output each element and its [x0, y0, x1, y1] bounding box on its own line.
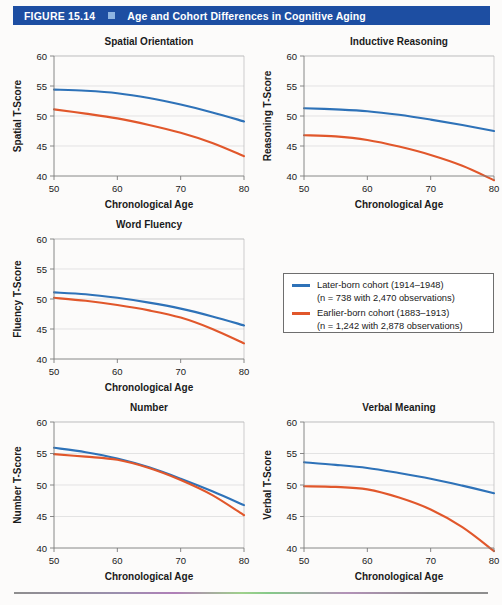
legend-item-later-born-label: Later-born cohort (1914–1948) (n = 738 w…	[317, 279, 455, 304]
y-tick-label-60: 60	[36, 417, 47, 428]
chart-title: Spatial Orientation	[105, 36, 194, 47]
figure-number: FIGURE 15.14	[24, 10, 95, 22]
x-tick-label-50: 50	[49, 366, 60, 377]
x-axis-title: Chronological Age	[105, 382, 194, 393]
chart-panel-number: Number404550556050607080Chronological Ag…	[8, 396, 252, 592]
x-tick-label-70: 70	[175, 183, 186, 194]
figure-title: Age and Cohort Differences in Cognitive …	[127, 10, 366, 22]
y-tick-label-60: 60	[286, 51, 297, 62]
line-swatch-orange-icon	[292, 312, 310, 315]
x-tick-label-50: 50	[299, 183, 310, 194]
x-tick-label-50: 50	[299, 555, 310, 566]
y-tick-label-50: 50	[36, 111, 47, 122]
y-tick-label-45: 45	[286, 511, 297, 522]
x-tick-label-80: 80	[489, 555, 500, 566]
y-tick-label-55: 55	[286, 81, 297, 92]
y-tick-label-45: 45	[36, 141, 47, 152]
chart-panel-spatial-orientation: Spatial Orientation404550556050607080Chr…	[8, 30, 252, 220]
line-swatch-blue-icon	[292, 284, 310, 287]
x-tick-label-60: 60	[112, 366, 123, 377]
legend-later-born-line2: (n = 738 with 2,470 observations)	[317, 293, 455, 303]
chart-legend: Later-born cohort (1914–1948) (n = 738 w…	[283, 273, 494, 333]
x-tick-label-60: 60	[112, 183, 123, 194]
chart-panel-inductive-reasoning: Inductive Reasoning404550556050607080Chr…	[258, 30, 502, 220]
y-tick-label-40: 40	[36, 171, 47, 182]
x-tick-label-50: 50	[49, 183, 60, 194]
chart-title: Word Fluency	[116, 219, 182, 230]
chart-panel-verbal-meaning: Verbal Meaning404550556050607080Chronolo…	[258, 396, 502, 592]
legend-earlier-born-line2: (n = 1,242 with 2,878 observations)	[317, 321, 462, 331]
x-tick-label-50: 50	[49, 555, 60, 566]
y-tick-label-60: 60	[36, 51, 47, 62]
y-tick-label-50: 50	[286, 480, 297, 491]
x-tick-label-70: 70	[175, 366, 186, 377]
legend-later-born-line1: Later-born cohort (1914–1948)	[317, 280, 444, 290]
y-tick-label-50: 50	[36, 294, 47, 305]
y-tick-label-50: 50	[36, 480, 47, 491]
y-tick-label-45: 45	[36, 324, 47, 335]
x-axis-title: Chronological Age	[355, 571, 444, 582]
legend-item-earlier-born-label: Earlier-born cohort (1883–1913) (n = 1,2…	[317, 307, 462, 332]
x-tick-label-70: 70	[425, 555, 436, 566]
legend-item-later-born: Later-born cohort (1914–1948) (n = 738 w…	[292, 279, 487, 304]
x-tick-label-80: 80	[239, 366, 250, 377]
figure-header-bar: FIGURE 15.14 Age and Cohort Differences …	[13, 6, 490, 25]
x-tick-label-60: 60	[112, 555, 123, 566]
y-axis-title: Number T-Score	[12, 446, 23, 524]
x-tick-label-80: 80	[489, 183, 500, 194]
x-tick-label-60: 60	[362, 183, 373, 194]
y-axis-title: Fluency T-Score	[12, 260, 23, 338]
x-axis-title: Chronological Age	[105, 199, 194, 210]
square-marker-icon	[108, 12, 115, 19]
x-tick-label-70: 70	[425, 183, 436, 194]
y-tick-label-45: 45	[36, 511, 47, 522]
y-tick-label-55: 55	[36, 448, 47, 459]
legend-earlier-born-line1: Earlier-born cohort (1883–1913)	[317, 308, 449, 318]
chart-title: Number	[130, 402, 168, 413]
page-divider-rule	[14, 592, 488, 594]
y-axis-title: Verbal T-Score	[262, 450, 273, 520]
series-line-later-born	[54, 90, 244, 122]
y-tick-label-55: 55	[36, 264, 47, 275]
series-line-earlier-born	[54, 109, 244, 156]
y-tick-label-40: 40	[36, 354, 47, 365]
y-tick-label-55: 55	[36, 81, 47, 92]
y-axis-title: Reasoning T-Score	[262, 70, 273, 161]
legend-item-earlier-born: Earlier-born cohort (1883–1913) (n = 1,2…	[292, 307, 487, 332]
series-line-earlier-born	[304, 135, 494, 180]
x-tick-label-80: 80	[239, 183, 250, 194]
chart-title: Verbal Meaning	[362, 402, 435, 413]
y-axis-title: Spatial T-Score	[12, 79, 23, 152]
series-line-later-born	[304, 108, 494, 131]
y-tick-label-40: 40	[286, 543, 297, 554]
chart-title: Inductive Reasoning	[350, 36, 448, 47]
y-tick-label-60: 60	[36, 234, 47, 245]
y-tick-label-60: 60	[286, 417, 297, 428]
y-tick-label-40: 40	[36, 543, 47, 554]
y-tick-label-55: 55	[286, 448, 297, 459]
series-line-later-born	[54, 292, 244, 325]
series-line-later-born	[304, 462, 494, 493]
y-tick-label-50: 50	[286, 111, 297, 122]
y-tick-label-45: 45	[286, 141, 297, 152]
y-tick-label-40: 40	[286, 171, 297, 182]
chart-panel-word-fluency: Word Fluency404550556050607080Chronologi…	[8, 213, 252, 403]
series-line-earlier-born	[54, 298, 244, 344]
x-axis-title: Chronological Age	[105, 571, 194, 582]
x-axis-title: Chronological Age	[355, 199, 444, 210]
x-tick-label-60: 60	[362, 555, 373, 566]
x-tick-label-70: 70	[175, 555, 186, 566]
series-line-earlier-born	[304, 486, 494, 551]
x-tick-label-80: 80	[239, 555, 250, 566]
